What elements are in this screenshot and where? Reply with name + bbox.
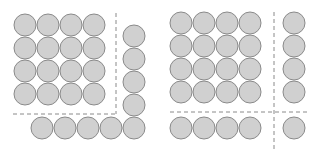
- grid-circle: [193, 12, 215, 34]
- gnomon-circle: [283, 117, 305, 139]
- gnomon-circle: [123, 94, 145, 116]
- gnomon-circle: [123, 71, 145, 93]
- gnomon-circle: [283, 12, 305, 34]
- grid-circle: [170, 58, 192, 80]
- gnomon-circle: [283, 81, 305, 103]
- grid-circle: [37, 14, 59, 36]
- grid-circle: [83, 37, 105, 59]
- gnomon-circle: [216, 117, 238, 139]
- square-numbers-diagram: [0, 0, 318, 152]
- grid-circle: [216, 81, 238, 103]
- gnomon-circle: [123, 25, 145, 47]
- grid-circle: [170, 35, 192, 57]
- grid-circle: [193, 58, 215, 80]
- grid-circle: [37, 83, 59, 105]
- gnomon-circle: [283, 58, 305, 80]
- gnomon-circle: [123, 48, 145, 70]
- grid-circle: [37, 37, 59, 59]
- grid-circle: [239, 35, 261, 57]
- gnomon-circle: [170, 117, 192, 139]
- grid-circle: [216, 58, 238, 80]
- grid-circle: [216, 35, 238, 57]
- grid-circle: [170, 12, 192, 34]
- gnomon-circle: [31, 117, 53, 139]
- gnomon-circle: [100, 117, 122, 139]
- grid-circle: [83, 83, 105, 105]
- grid-circle: [193, 35, 215, 57]
- gnomon-circle: [77, 117, 99, 139]
- gnomon-circle: [123, 117, 145, 139]
- grid-circle: [239, 12, 261, 34]
- gnomon-circle: [193, 117, 215, 139]
- grid-circle: [60, 83, 82, 105]
- grid-circle: [37, 60, 59, 82]
- grid-circle: [193, 81, 215, 103]
- right-figure: [170, 12, 310, 150]
- grid-circle: [60, 60, 82, 82]
- grid-circle: [170, 81, 192, 103]
- grid-circle: [83, 60, 105, 82]
- gnomon-circle: [54, 117, 76, 139]
- grid-circle: [239, 81, 261, 103]
- gnomon-circle: [239, 117, 261, 139]
- grid-circle: [239, 58, 261, 80]
- grid-circle: [14, 60, 36, 82]
- grid-circle: [60, 14, 82, 36]
- gnomon-circle: [283, 35, 305, 57]
- grid-circle: [60, 37, 82, 59]
- left-figure: [13, 13, 145, 139]
- grid-circle: [14, 14, 36, 36]
- grid-circle: [83, 14, 105, 36]
- grid-circle: [14, 83, 36, 105]
- grid-circle: [216, 12, 238, 34]
- grid-circle: [14, 37, 36, 59]
